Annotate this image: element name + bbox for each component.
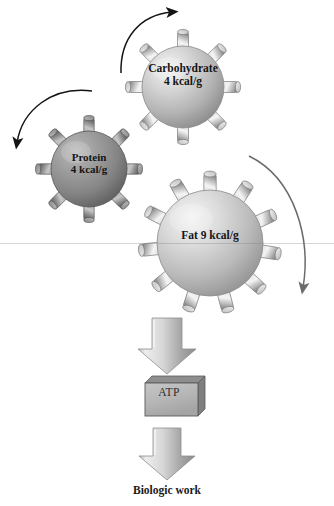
down-arrow-to-biologic-work (139, 428, 195, 480)
diagram-svg (0, 0, 334, 506)
figure-canvas: Carbohydrate 4 kcal/g Protein 4 kcal/g F… (0, 0, 334, 506)
down-arrow-to-atp (138, 318, 196, 374)
biologic-work-caption: Biologic work (87, 484, 247, 496)
atp-box (145, 376, 205, 416)
scan-artifact-line (0, 243, 334, 244)
molecule-carbohydrate (125, 29, 240, 144)
molecule-protein (36, 116, 143, 223)
